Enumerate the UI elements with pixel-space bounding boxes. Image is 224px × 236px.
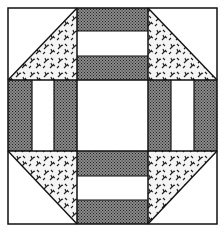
cell-bottom-right: [148, 151, 217, 224]
cell-middle-right: [148, 80, 217, 151]
cell-top-left: [8, 8, 77, 80]
cell-bottom-left: [8, 151, 77, 224]
cell-bottom-center: [77, 151, 148, 224]
quilt-block-drawing: [0, 0, 224, 236]
cell-top-right: [148, 8, 217, 80]
cell-middle-left: [8, 80, 77, 151]
cell-top-center: [77, 8, 148, 80]
cell-center: [77, 80, 148, 151]
